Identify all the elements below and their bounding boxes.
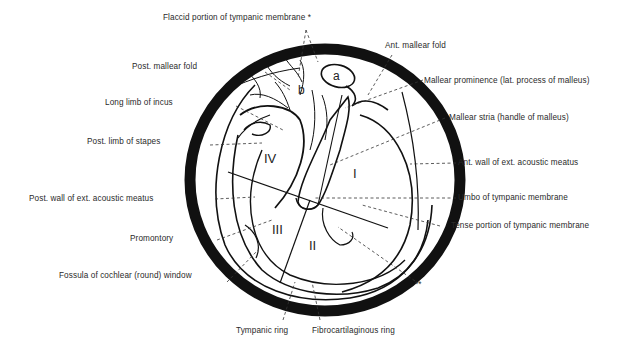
label-fibrocartilaginous-ring: Fibrocartilaginous ring: [312, 326, 395, 336]
mallear-prominence-outline: [346, 86, 388, 110]
sublabel-a: a: [333, 69, 340, 83]
label-fossula: Fossula of cochlear (round) window: [59, 271, 192, 281]
label-ant-mallear-fold: Ant. mallear fold: [385, 41, 446, 51]
label-post-limb-stapes: Post. limb of stapes: [87, 137, 160, 147]
label-tympanic-ring: Tympanic ring: [236, 326, 288, 336]
quadrant-II-label: II: [309, 238, 316, 253]
label-double-asterisk: **: [415, 280, 422, 290]
label-long-limb-incus: Long limb of incus: [105, 98, 173, 108]
label-post-mallear-fold: Post. mallear fold: [132, 62, 197, 72]
round-window-niche: [245, 225, 258, 258]
anterior-annulus: [342, 115, 412, 292]
quadrant-line-vertical: [280, 200, 310, 283]
sublabel-b: b: [298, 83, 305, 97]
tympanic-ring-outline: [233, 135, 428, 294]
label-umbo: Umbo of tympanic membrane: [458, 193, 568, 203]
label-post-wall: Post. wall of ext. acoustic meatus: [29, 194, 153, 204]
label-ant-wall: Ant. wall of ext. acoustic meatus: [458, 158, 578, 168]
label-promontory: Promontory: [130, 234, 173, 244]
label-mallear-stria: Mallear stria (handle of malleus): [449, 113, 569, 123]
stapes-posterior-limb: [244, 122, 270, 135]
label-flaccid-portion: Flaccid portion of tympanic membrane *: [163, 13, 311, 23]
quadrant-III-label: III: [272, 222, 283, 237]
inner-annulus: [251, 150, 405, 284]
label-tense-portion: Tense portion of tympanic membrane: [451, 221, 589, 231]
malleus-handle: [298, 97, 349, 209]
quadrant-I-label: I: [353, 166, 357, 181]
mallear-stria-line: [318, 95, 342, 205]
quadrant-IV-label: IV: [264, 151, 277, 166]
label-mallear-prominence: Mallear prominence (lat. process of mall…: [424, 76, 589, 86]
tympanic-membrane-diagram: I II III IV a b: [0, 0, 627, 354]
